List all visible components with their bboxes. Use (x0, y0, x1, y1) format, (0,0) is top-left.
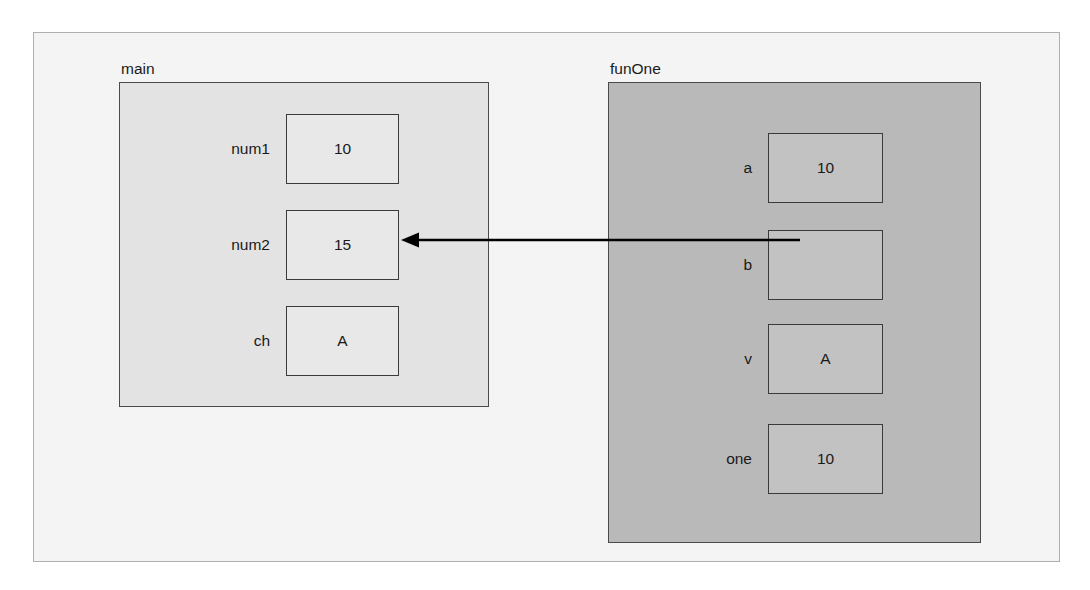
scope-label-main: main (121, 61, 155, 77)
diagram-canvas: main num1 10 num2 15 ch A funOne a 10 b … (0, 0, 1090, 590)
variable-value-one: 10 (768, 424, 883, 494)
variable-name-num2: num2 (134, 236, 286, 254)
variable-value-v: A (768, 324, 883, 394)
variable-row-v: v A (623, 324, 883, 394)
variable-row-num2: num2 15 (134, 210, 399, 280)
scope-label-funone: funOne (610, 61, 661, 77)
variable-name-a: a (623, 159, 768, 177)
scope-block-funone: a 10 b v A one 10 (608, 82, 981, 543)
variable-row-a: a 10 (623, 133, 883, 203)
variable-name-num1: num1 (134, 140, 286, 158)
variable-row-num1: num1 10 (134, 114, 399, 184)
variable-value-num2: 15 (286, 210, 399, 280)
variable-name-ch: ch (134, 332, 286, 350)
variable-name-one: one (623, 450, 768, 468)
variable-value-a: 10 (768, 133, 883, 203)
variable-value-num1: 10 (286, 114, 399, 184)
variable-value-ch: A (286, 306, 399, 376)
variable-name-b: b (623, 256, 768, 274)
variable-name-v: v (623, 350, 768, 368)
variable-row-one: one 10 (623, 424, 883, 494)
reference-arrow-icon (395, 228, 810, 252)
variable-row-ch: ch A (134, 306, 399, 376)
